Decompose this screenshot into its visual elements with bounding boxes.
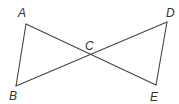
label-C: C — [85, 39, 94, 53]
label-D: D — [166, 6, 175, 20]
label-E: E — [150, 90, 159, 104]
segments — [16, 22, 167, 86]
segment-BD — [16, 22, 167, 86]
bowtie-triangles-diagram: A B C D E — [0, 0, 179, 104]
label-A: A — [17, 6, 26, 20]
segment-DE — [156, 22, 167, 85]
segment-AB — [16, 24, 26, 86]
label-B: B — [9, 89, 17, 103]
